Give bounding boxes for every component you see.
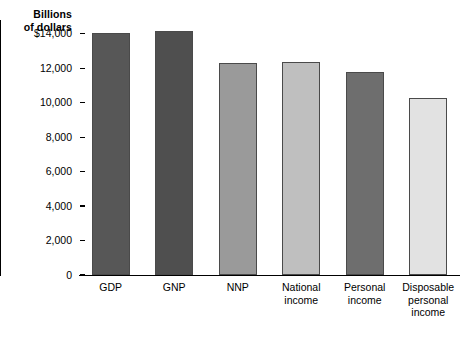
- y-axis-tick-label-text: 6,000: [0, 166, 72, 176]
- y-axis-tick-label: 10,000: [0, 97, 72, 107]
- y-axis-tick: [80, 274, 85, 275]
- y-axis-tick-label: 8,000: [0, 132, 72, 142]
- y-axis-tick: [80, 240, 85, 241]
- y-axis-tick: [80, 205, 85, 206]
- y-axis-tick-label: 12,000: [0, 63, 72, 73]
- x-axis-tick-label-line: income: [348, 294, 382, 306]
- y-axis-tick-label-text: 2,000: [0, 235, 72, 245]
- x-axis-tick-label: Disposablepersonalincome: [397, 281, 461, 319]
- x-axis-tick-label: GNP: [143, 281, 207, 294]
- bar: [92, 33, 130, 275]
- bar: [282, 62, 320, 275]
- y-axis-tick: [80, 33, 85, 34]
- bar: [409, 98, 447, 275]
- x-axis-line: [79, 275, 460, 276]
- x-axis-tick-label: Nationalincome: [270, 281, 334, 306]
- bar: [219, 63, 257, 275]
- x-axis-tick-label-line: personal: [408, 294, 448, 306]
- y-axis-tick-label-text: $14,000: [0, 28, 72, 38]
- y-axis-tick-label: 2,000: [0, 235, 72, 245]
- x-axis-tick-label: GDP: [79, 281, 143, 294]
- y-axis-tick-label: $14,000: [0, 28, 72, 38]
- x-axis-tick-label-line: GDP: [99, 281, 122, 293]
- y-axis-tick: [80, 102, 85, 103]
- x-axis-tick-label-line: National: [282, 281, 321, 293]
- x-axis-tick-label-line: income: [284, 294, 318, 306]
- y-axis-tick: [80, 137, 85, 138]
- x-axis-tick-label-line: Disposable: [402, 281, 454, 293]
- y-axis-tick-label: 0: [0, 270, 72, 280]
- y-axis-tick-label-text: 0: [0, 270, 72, 280]
- y-axis-tick: [80, 171, 85, 172]
- y-axis-tick: [80, 68, 85, 69]
- bar: [346, 72, 384, 275]
- y-axis-tick-label: 6,000: [0, 166, 72, 176]
- bar: [155, 31, 193, 275]
- y-axis-tick-label-text: 10,000: [0, 97, 72, 107]
- y-axis-tick-label-text: 12,000: [0, 63, 72, 73]
- x-axis-tick-label-line: income: [411, 306, 445, 318]
- x-axis-tick-label-line: Personal: [344, 281, 385, 293]
- y-axis-tick-label-text: 4,000: [0, 201, 72, 211]
- x-axis-tick-label-line: NNP: [227, 281, 249, 293]
- y-axis-title-line1: Billions: [33, 8, 72, 20]
- y-axis-tick-label: 4,000: [0, 201, 72, 211]
- x-axis-tick-label: NNP: [206, 281, 270, 294]
- x-axis-tick-label: Personalincome: [333, 281, 397, 306]
- x-axis-tick-label-line: GNP: [163, 281, 186, 293]
- bar-chart-figure: Billions of dollars 02,0004,0006,0008,00…: [0, 0, 471, 337]
- y-axis-tick-label-text: 8,000: [0, 132, 72, 142]
